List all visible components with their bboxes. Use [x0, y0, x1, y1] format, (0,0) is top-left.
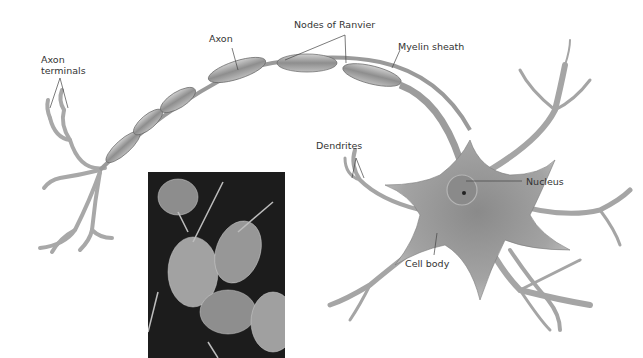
- micrograph-image: [148, 172, 285, 358]
- label-axon-terminals-line1: Axon: [41, 54, 86, 65]
- label-myelin-sheath: Myelin sheath: [398, 41, 464, 52]
- label-cell-body: Cell body: [405, 258, 449, 269]
- label-nodes-of-ranvier: Nodes of Ranvier: [294, 19, 375, 30]
- neuron-diagram: Axon terminals Axon Nodes of Ranvier Mye…: [0, 0, 643, 358]
- label-axon: Axon: [209, 33, 233, 44]
- nucleus: [447, 175, 477, 205]
- label-dendrites: Dendrites: [316, 140, 362, 151]
- cell-body: [385, 140, 570, 300]
- label-axon-terminals-line2: terminals: [41, 65, 86, 76]
- label-axon-terminals: Axon terminals: [41, 54, 86, 76]
- label-nucleus: Nucleus: [526, 176, 564, 187]
- micrograph-inset: [148, 172, 285, 358]
